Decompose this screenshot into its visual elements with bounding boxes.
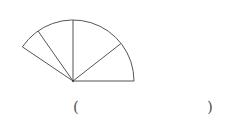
outer-arc bbox=[22, 20, 134, 81]
ray-38 bbox=[73, 43, 121, 81]
center-point bbox=[72, 80, 74, 82]
ray-125 bbox=[38, 31, 73, 81]
sector-diagram bbox=[0, 0, 225, 131]
answer-close-paren: ) bbox=[207, 100, 213, 115]
ray-146 bbox=[22, 47, 73, 81]
answer-open-paren: ( bbox=[73, 100, 79, 115]
